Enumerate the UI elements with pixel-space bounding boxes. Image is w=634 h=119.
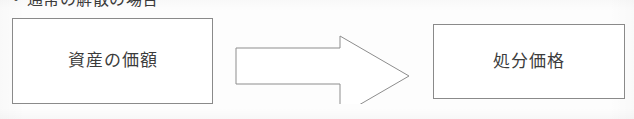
node-label-assets: 資産の価額 bbox=[68, 52, 158, 69]
diagram-page: ・通常の解散の場合 資産の価額 処分価格 bbox=[0, 0, 634, 119]
heading-text: 通常の解散の場合 bbox=[27, 0, 159, 9]
node-label-disposal: 処分価格 bbox=[493, 53, 565, 70]
heading-bullet-icon: ・ bbox=[8, 0, 25, 10]
node-box-disposal: 処分価格 bbox=[433, 24, 625, 99]
flow-arrow-icon bbox=[228, 28, 416, 104]
diagram-heading: ・通常の解散の場合 bbox=[8, 0, 159, 10]
node-box-assets: 資産の価額 bbox=[12, 18, 213, 104]
